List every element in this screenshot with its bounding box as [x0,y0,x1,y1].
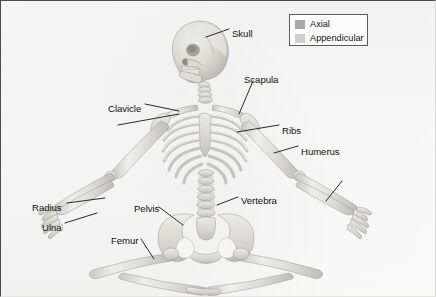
skeleton-figure: Axial Appendicular Skull Scapula Clavicl… [0,0,436,297]
legend-swatch-axial [295,20,305,29]
legend-swatch-appendicular [295,34,305,43]
cervical-spine [198,81,213,103]
skull-bone [172,21,228,83]
label-scapula: Scapula [244,75,278,85]
label-femur: Femur [111,236,138,246]
legend-item-axial: Axial [295,18,367,31]
right-arm-bones [241,121,371,239]
sternum-bone [199,113,211,157]
label-ulna: Ulna [42,223,62,233]
label-vertebra: Vertebra [241,196,277,206]
label-radius: Radius [32,203,62,213]
vertebra-bone [197,170,215,217]
label-skull: Skull [232,29,253,39]
label-humerus: Humerus [301,147,340,157]
sacrum-bone [196,217,215,240]
legend-label-appendicular: Appendicular [310,34,364,43]
skeleton-illustration [1,1,436,297]
label-pelvis: Pelvis [134,204,159,214]
label-ribs: Ribs [282,126,301,136]
legend-item-appendicular: Appendicular [295,32,367,45]
label-clavicle: Clavicle [108,104,141,114]
legend-box: Axial Appendicular [289,14,368,46]
legend-label-axial: Axial [310,20,330,29]
